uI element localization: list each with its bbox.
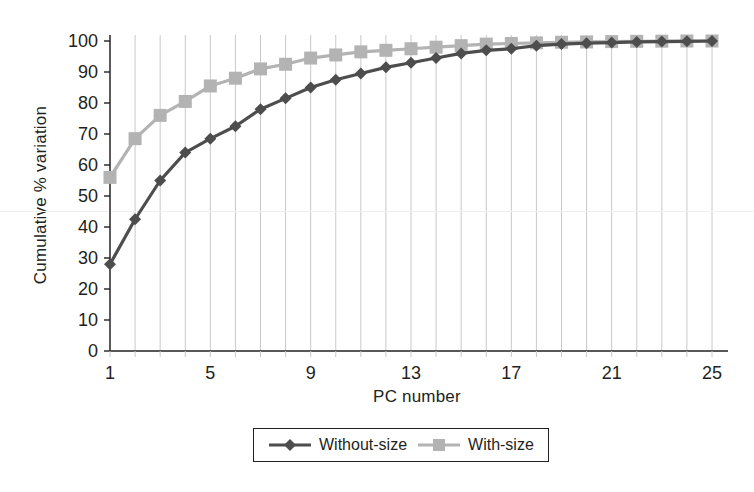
y-tick-label: 80 <box>78 93 98 113</box>
y-tick-label: 30 <box>78 248 98 268</box>
data-point-diamond <box>405 57 417 69</box>
data-point-square <box>405 42 418 55</box>
data-point-square <box>154 109 167 122</box>
data-point-diamond <box>330 74 342 86</box>
data-point-square <box>229 72 242 85</box>
data-point-square <box>304 52 317 65</box>
y-tick-label: 100 <box>68 31 98 51</box>
y-tick-label: 40 <box>78 217 98 237</box>
data-point-diamond <box>104 258 116 270</box>
y-tick-labels-group: 0102030405060708090100 <box>68 31 98 361</box>
plot-area: 0102030405060708090100 15913172125 <box>0 0 754 492</box>
chart-legend: Without-size With-size <box>253 428 549 462</box>
data-point-square <box>430 41 443 54</box>
x-axis-title: PC number <box>110 385 724 409</box>
legend-item-without-size: Without-size <box>268 436 407 454</box>
y-tick-label: 50 <box>78 186 98 206</box>
data-point-square <box>354 45 367 58</box>
x-tick-label: 9 <box>306 363 316 383</box>
data-point-square <box>179 95 192 108</box>
y-tick-label: 70 <box>78 124 98 144</box>
data-point-square <box>104 171 117 184</box>
axis-lines-group <box>110 35 728 351</box>
legend-marker-diamond-icon <box>268 437 312 453</box>
tick-marks-group <box>104 41 712 357</box>
data-point-diamond <box>204 133 216 145</box>
y-tick-label: 90 <box>78 62 98 82</box>
data-point-diamond <box>305 82 317 94</box>
data-point-diamond <box>380 61 392 73</box>
y-tick-label: 60 <box>78 155 98 175</box>
data-point-square <box>204 79 217 92</box>
chart-container: Cumulative % variation 01020304050607080… <box>0 0 754 492</box>
y-tick-label: 20 <box>78 279 98 299</box>
data-point-square <box>279 58 292 71</box>
data-point-diamond <box>280 92 292 104</box>
data-point-diamond <box>355 68 367 80</box>
data-point-diamond <box>430 52 442 64</box>
x-tick-label: 25 <box>702 363 722 383</box>
legend-label-with-size: With-size <box>468 436 534 454</box>
data-point-square <box>254 62 267 75</box>
x-tick-label: 17 <box>501 363 521 383</box>
y-tick-label: 0 <box>88 341 98 361</box>
x-tick-label: 1 <box>105 363 115 383</box>
data-point-square <box>129 132 142 145</box>
x-tick-labels-group: 15913172125 <box>105 363 722 383</box>
x-tick-label: 13 <box>401 363 421 383</box>
legend-item-with-size: With-size <box>417 436 534 454</box>
gridlines-group <box>0 35 754 351</box>
legend-label-without-size: Without-size <box>319 436 407 454</box>
y-tick-label: 10 <box>78 310 98 330</box>
data-point-square <box>329 48 342 61</box>
data-point-square <box>379 44 392 57</box>
x-tick-label: 5 <box>205 363 215 383</box>
x-tick-label: 21 <box>602 363 622 383</box>
legend-marker-square-icon <box>417 437 461 453</box>
